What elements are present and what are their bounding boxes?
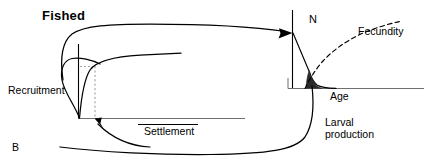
settlement-flow (98, 124, 150, 147)
larval-production-label-line2: production (325, 129, 374, 141)
fecundity-label: Fecundity (358, 26, 404, 38)
left-panel-axes (78, 44, 245, 119)
panel-label: B (12, 142, 19, 154)
settlement-arrowhead (95, 118, 104, 129)
abundance-n-curve (293, 33, 336, 88)
settlement-label: Settlement (144, 126, 194, 138)
page-title: Fished (42, 9, 85, 24)
figure-panel-b: Fished Recruitment Settlement N Fecundit… (0, 0, 424, 164)
abundance-symbol-label: N (309, 13, 317, 25)
recruitment-to-age-arrowhead (279, 28, 293, 38)
recruitment-axis-label: Recruitment (8, 85, 65, 97)
larval-production-label-line1: Larval (325, 117, 354, 129)
age-axis-label: Age (330, 91, 349, 103)
